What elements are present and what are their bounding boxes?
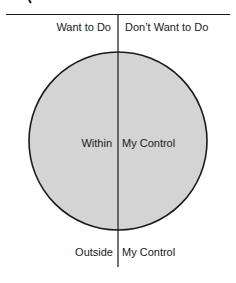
title-glyph-fragment bbox=[29, 0, 31, 3]
header-dont-want-to-do: Don’t Want to Do bbox=[125, 21, 208, 34]
label-outside: Outside bbox=[75, 246, 113, 259]
label-my-control-outside: My Control bbox=[122, 246, 175, 259]
label-within: Within bbox=[81, 137, 112, 150]
label-my-control-inside: My Control bbox=[122, 137, 175, 150]
diagram-canvas bbox=[0, 0, 236, 283]
header-want-to-do: Want to Do bbox=[56, 21, 111, 34]
